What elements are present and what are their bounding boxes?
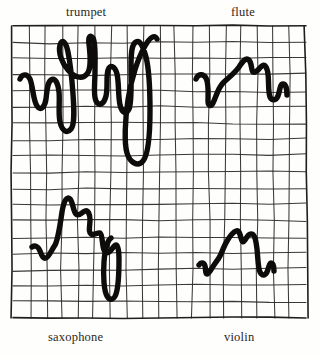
- waveform-figure: trumpet flute saxophone violin: [0, 0, 320, 357]
- waveform-trumpet: [20, 36, 157, 164]
- waveform-curves: [0, 0, 320, 357]
- waveform-violin: [199, 231, 274, 275]
- waveform-flute: [196, 59, 287, 105]
- waveform-saxophone: [32, 198, 119, 299]
